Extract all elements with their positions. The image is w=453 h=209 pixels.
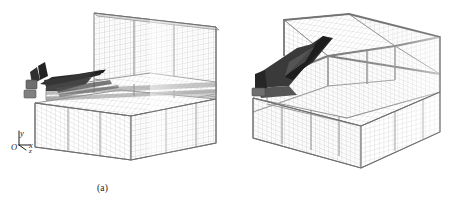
grid-rendering-b bbox=[227, 0, 453, 209]
grid-rendering-a bbox=[0, 0, 227, 209]
figure-root: O y x z (a) bbox=[0, 0, 453, 209]
axis-origin-label-a: O bbox=[11, 143, 17, 152]
panel-b: O y x z (b) bbox=[227, 0, 453, 209]
depth-fade-b bbox=[337, 0, 453, 209]
panel-a: O y x z (a) bbox=[0, 0, 227, 209]
axis-y-label-a: y bbox=[20, 129, 24, 138]
caption-a: (a) bbox=[97, 183, 108, 193]
axis-z-label-a: z bbox=[29, 148, 32, 155]
